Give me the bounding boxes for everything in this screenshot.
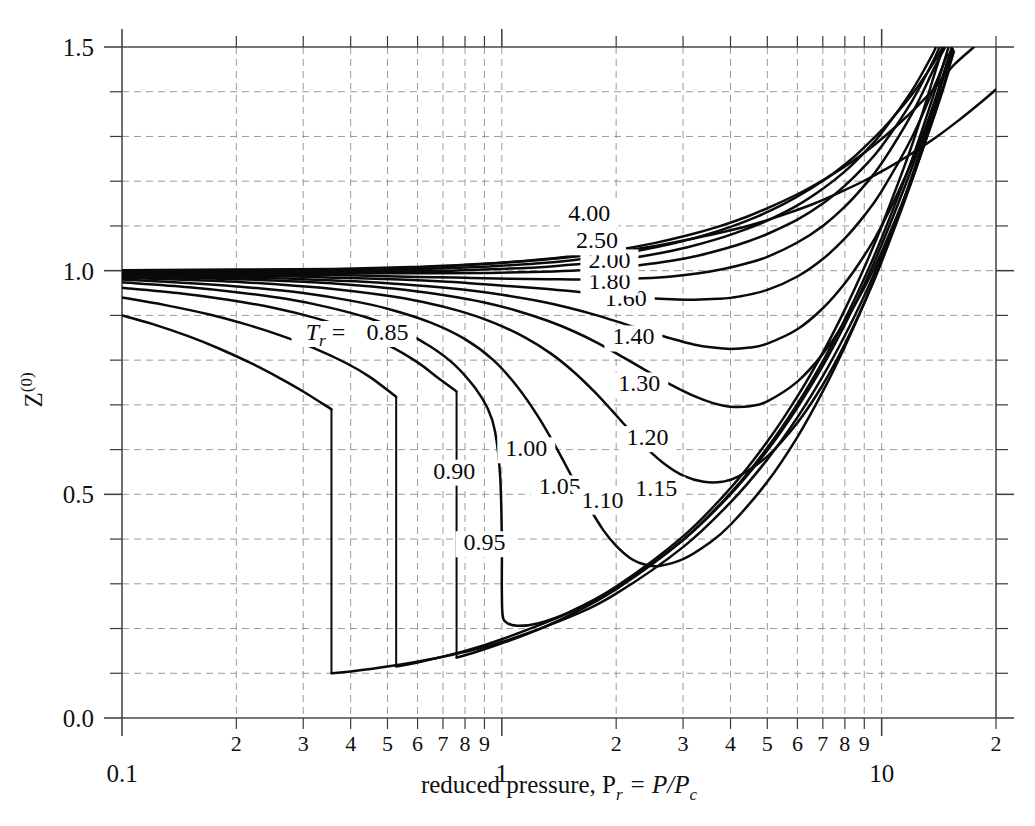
y-major-tick-label: 0.0 xyxy=(63,705,94,732)
x-minor-tick-label: 6 xyxy=(412,731,423,756)
curve-label-0.90: 0.90 xyxy=(433,458,475,484)
x-minor-tick-label: 2 xyxy=(231,731,242,756)
x-minor-tick-label: 4 xyxy=(345,731,356,756)
curve-label-4.00: 4.00 xyxy=(568,200,610,226)
x-minor-tick-label: 2 xyxy=(991,731,1002,756)
curve-label-0.95: 0.95 xyxy=(463,529,505,555)
x-minor-tick-label: 7 xyxy=(437,731,448,756)
y-title-superscript: (0) xyxy=(17,372,36,392)
x-major-tick-label: 0.1 xyxy=(106,760,137,787)
isotherm-curve-1.80 xyxy=(122,47,936,272)
curve-label-1.10: 1.10 xyxy=(581,487,623,513)
y-major-tick-label: 0.5 xyxy=(63,481,94,508)
x-axis-title: reduced pressure, Pr = P/Pc xyxy=(421,771,698,804)
x-minor-tick-label: 8 xyxy=(460,731,471,756)
tick-labels-layer: 0.1110234567892345678920.00.51.01.5 xyxy=(63,34,1002,787)
isotherm-curve-0.85 xyxy=(331,51,953,673)
x-axis-title-text: reduced pressure, Pr = P/Pc xyxy=(421,771,698,804)
curve-label-0.85: 0.85 xyxy=(366,319,408,345)
x-minor-tick-label: 7 xyxy=(817,731,828,756)
curve-label-2.50: 2.50 xyxy=(576,227,618,253)
x-minor-tick-label: 4 xyxy=(725,731,736,756)
x-minor-tick-label: 6 xyxy=(792,731,803,756)
compressibility-chart-figure: 0.850.900.951.001.051.101.151.201.301.40… xyxy=(0,0,1035,826)
isotherm-curve-1.60 xyxy=(122,47,940,273)
curve-label-1.15: 1.15 xyxy=(635,475,677,501)
curves-layer xyxy=(122,47,996,673)
x-minor-tick-label: 8 xyxy=(839,731,850,756)
x-minor-tick-label: 5 xyxy=(382,731,393,756)
x-minor-tick-label: 5 xyxy=(762,731,773,756)
x-title-rest: = P/P xyxy=(623,771,690,798)
curve-label-1.40: 1.40 xyxy=(612,323,654,349)
y-axis-title: Z(0) xyxy=(17,372,47,407)
y-axis-title-text: Z(0) xyxy=(17,372,47,407)
x-title-plain: reduced pressure, P xyxy=(421,771,616,798)
isotherm-curve-2.00 xyxy=(122,47,943,272)
tr-equals: = xyxy=(326,319,346,345)
x-minor-tick-label: 9 xyxy=(859,731,870,756)
isotherm-curve-0.90 xyxy=(396,47,952,667)
curve-label-1.00: 1.00 xyxy=(505,435,547,461)
y-title-base: Z xyxy=(20,392,47,407)
x-minor-tick-label: 2 xyxy=(611,731,622,756)
isotherm-curve-1.40 xyxy=(122,47,945,280)
x-title-sub-c: c xyxy=(690,785,698,804)
curve-label-1.20: 1.20 xyxy=(627,424,669,450)
x-major-tick-label: 10 xyxy=(869,760,894,787)
x-minor-tick-label: 3 xyxy=(678,731,689,756)
y-major-tick-label: 1.0 xyxy=(63,258,94,285)
chart-canvas: 0.850.900.951.001.051.101.151.201.301.40… xyxy=(0,0,1035,826)
isotherm-curve-1.10 xyxy=(122,87,941,482)
curve-label-1.30: 1.30 xyxy=(618,370,660,396)
isotherm-curve-4.00 xyxy=(122,90,996,271)
x-minor-tick-label: 9 xyxy=(479,731,490,756)
x-minor-tick-label: 3 xyxy=(298,731,309,756)
y-major-tick-label: 1.5 xyxy=(63,34,94,61)
isotherm-curve-0.90 xyxy=(122,298,396,397)
